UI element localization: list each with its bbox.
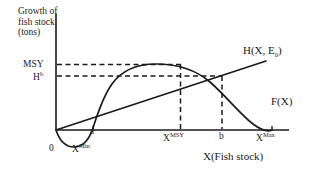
xmax-label-base: X — [256, 133, 263, 143]
xmax-label-superscript: Max — [263, 131, 275, 138]
x-axis-title: X(Fish stock) — [203, 150, 263, 162]
xmsy-label: XMSY — [163, 131, 184, 144]
xmsy-label-base: X — [163, 133, 170, 143]
hb-label: Hb — [33, 70, 43, 83]
y-axis-title: Growth of fish stock (tons) — [18, 6, 57, 38]
point-b-label: b — [219, 131, 224, 142]
harvest-curve-label-base: H(X, E — [243, 44, 275, 56]
hb-label-superscript: b — [40, 70, 43, 77]
fisheries-growth-diagram: Growth of fish stock (tons) X(Fish stock… — [0, 0, 315, 172]
xmin-label-base: X — [72, 144, 79, 154]
xmax-label: XMax — [256, 131, 275, 144]
harvest-curve-label-close: ) — [278, 44, 282, 56]
growth-curve-label: F(X) — [271, 95, 292, 107]
harvest-line-hxe0 — [56, 61, 266, 130]
y-axis-title-line-1: Growth of — [18, 6, 57, 17]
harvest-curve-label: H(X, E0) — [243, 44, 282, 58]
xmsy-label-superscript: MSY — [170, 131, 184, 138]
xmin-label-superscript: Min — [79, 142, 90, 149]
point-a-label: a — [90, 126, 94, 136]
hb-label-base: H — [33, 72, 40, 82]
y-axis-title-line-2: fish stock — [18, 17, 57, 28]
xmin-label: XMin — [72, 142, 90, 155]
origin-label: 0 — [49, 143, 54, 154]
msy-label: MSY — [23, 59, 44, 70]
y-axis-title-line-3: (tons) — [18, 27, 57, 38]
